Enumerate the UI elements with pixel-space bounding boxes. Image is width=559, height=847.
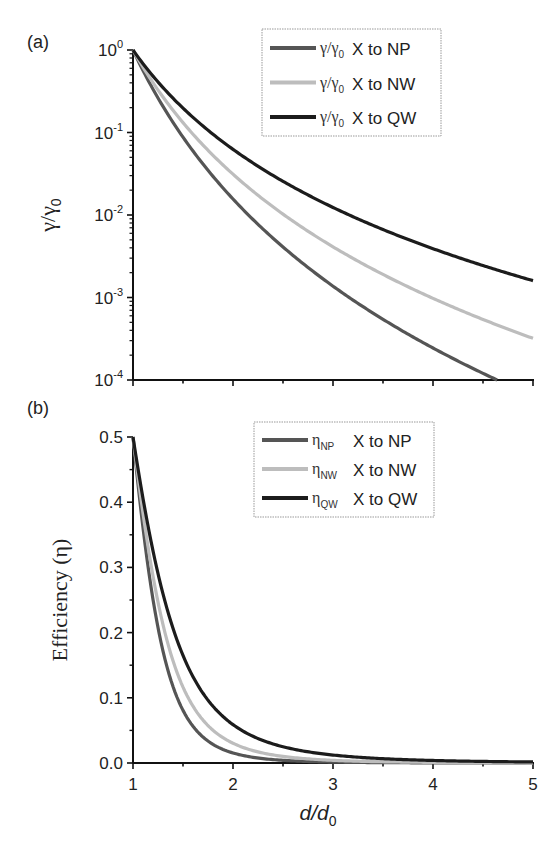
panel-b-y-tick-label: 0.5 <box>99 428 123 447</box>
panel-a-legend: γ/γ0X to NPγ/γ0X to NWγ/γ0X to QW <box>262 29 441 136</box>
panel-b-x-tick-label: 3 <box>328 775 337 794</box>
legend-label: X to NP <box>353 432 412 451</box>
legend-label: X to NW <box>353 461 416 480</box>
legend-label: X to NP <box>352 40 411 59</box>
legend-label: X to QW <box>352 109 416 128</box>
panel-b-y-axis-title: Efficiency (η) <box>47 539 72 662</box>
panel-a-y-axis-label: γ/γ0 <box>35 198 64 233</box>
panel-b-y-tick-label: 0.3 <box>99 558 123 577</box>
legend-label: X to QW <box>353 490 417 509</box>
panel-a-y-tick-label: 10-1 <box>94 121 123 143</box>
panel-b-x-tick-label: 2 <box>228 775 237 794</box>
panel-b-legend: ηNPX to NPηNWX to NWηQWX to QW <box>254 422 434 517</box>
panel-a-y-tick-label: 10-3 <box>94 286 123 308</box>
panel-a-gamma-ratio-plot: (a) 10010-110-210-310-4 γ/γ0 γ/γ0X to NP… <box>27 29 534 390</box>
panel-b-label: (b) <box>27 398 49 418</box>
panel-b-y-tick-label: 0.4 <box>99 493 123 512</box>
panel-a-y-tick-label: 100 <box>98 38 123 60</box>
panel-a-y-tick-label: 10-2 <box>94 203 123 225</box>
legend-label: X to NW <box>352 75 415 94</box>
panel-a-label: (a) <box>27 32 49 52</box>
panel-b-x-tick-label: 4 <box>428 775 437 794</box>
panel-a-y-tick-label: 10-4 <box>94 368 123 390</box>
panel-a-y-axis-title: γ/γ0 <box>35 198 64 233</box>
panel-b-y-tick-label: 0.1 <box>99 689 123 708</box>
panel-b-y-tick-label: 0.0 <box>99 754 123 773</box>
panel-b-x-axis-title: d/d0 <box>300 801 337 829</box>
panel-b-x-tick-label: 1 <box>128 775 137 794</box>
panel-b-y-axis-label: Efficiency (η) <box>47 539 72 662</box>
panel-b-x-tick-label: 5 <box>528 775 537 794</box>
panel-b-y-tick-label: 0.2 <box>99 624 123 643</box>
figure: (a) 10010-110-210-310-4 γ/γ0 γ/γ0X to NP… <box>0 0 559 847</box>
panel-b-efficiency-plot: (b) 0.00.10.20.30.40.512345 Efficiency (… <box>27 398 538 829</box>
panel-b-x-axis-label: d/d0 <box>300 801 337 829</box>
